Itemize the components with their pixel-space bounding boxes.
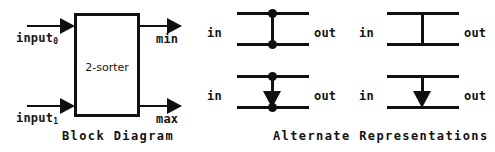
variant-4-in-label: in <box>359 90 374 102</box>
variant-1-out-label: out <box>314 27 336 39</box>
input-1-label: input1 <box>16 112 58 126</box>
variant-3-bottom-dot <box>268 103 277 112</box>
variant-2-in-label: in <box>359 27 374 39</box>
variant-3-out-label: out <box>314 90 336 102</box>
variant-1-bottom-dot <box>268 40 277 49</box>
variant-1-in-label: in <box>207 27 222 39</box>
variant-2-out-label: out <box>464 27 486 39</box>
input-0-arrowhead <box>60 18 75 34</box>
variant-4-arrowhead <box>413 91 431 108</box>
output-max-label: max <box>156 113 178 125</box>
alternate-representations-caption: Alternate Representations <box>273 130 489 142</box>
variant-2-connector <box>421 12 424 46</box>
sorter-box: 2-sorter <box>74 13 140 117</box>
input-0-subscript: 0 <box>53 37 58 46</box>
variant-3-in-label: in <box>207 90 222 102</box>
sorter-box-label: 2-sorter <box>77 62 137 73</box>
block-diagram-caption: Block Diagram <box>62 130 174 142</box>
input-1-arrowhead <box>60 98 75 114</box>
variant-1-top-dot <box>268 9 277 18</box>
input-0-label: input0 <box>16 32 58 46</box>
variant-3-top-dot <box>268 72 277 81</box>
input-0-label-text: input <box>16 31 53 45</box>
sorter-figure: input0 input1 2-sorter min max Block Dia… <box>0 0 495 152</box>
output-min-label: min <box>156 33 178 45</box>
variant-4-out-label: out <box>464 90 486 102</box>
input-1-subscript: 1 <box>53 117 58 126</box>
input-1-label-text: input <box>16 111 53 125</box>
